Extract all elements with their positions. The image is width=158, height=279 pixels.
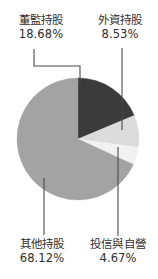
- slice-label-investment-name: 投信與自營: [78, 238, 158, 251]
- slice-label-foreign-name: 外資持股: [84, 14, 156, 27]
- slice-label-investment-value: 4.67%: [78, 252, 158, 265]
- slice-label-foreign: 外資持股 8.53%: [84, 14, 156, 41]
- slice-label-foreign-value: 8.53%: [84, 28, 156, 41]
- pie-slice-group: [17, 78, 139, 200]
- slice-label-investment: 投信與自營 4.67%: [78, 238, 158, 265]
- slice-label-directors-name: 董監持股: [2, 14, 80, 27]
- pie-chart-figure: 董監持股 18.68% 外資持股 8.53% 其他持股 68.12% 投信與自營…: [0, 0, 158, 279]
- slice-label-directors: 董監持股 18.68%: [2, 14, 80, 41]
- slice-label-others-value: 68.12%: [2, 252, 82, 265]
- slice-label-others-name: 其他持股: [2, 238, 82, 251]
- slice-label-directors-value: 18.68%: [2, 28, 80, 41]
- slice-label-others: 其他持股 68.12%: [2, 238, 82, 265]
